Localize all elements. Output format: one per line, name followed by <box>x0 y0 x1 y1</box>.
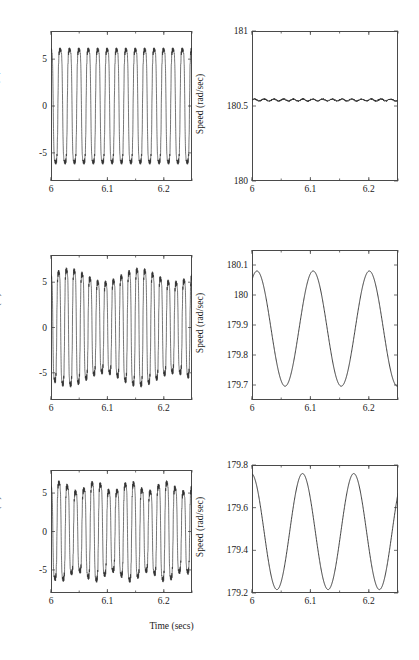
plot-trace-middle-right <box>0 0 419 660</box>
plot-trace-middle-left <box>0 0 419 660</box>
subplot-bottom-left: -50566.16.2Line Cuurent (A)Time (secs) <box>0 0 419 660</box>
ytick-label: 5 <box>5 54 47 64</box>
ytick-label: -5 <box>5 368 47 378</box>
subplot-top-right: 180180.518166.16.2Speed (rad/sec) <box>0 0 419 660</box>
ytick-label: 180 <box>206 290 248 300</box>
ytick-label: 179.2 <box>206 588 248 598</box>
xtick-label: 6 <box>49 184 54 194</box>
xtick-label: 6.2 <box>158 403 170 413</box>
ylabel-bottom-right: Speed (rad/sec) <box>195 443 205 611</box>
axes-box-top-right <box>252 31 398 181</box>
xtick-label: 6.1 <box>304 403 316 413</box>
data-series-middle-left <box>51 268 192 388</box>
ytick-label: -5 <box>5 148 47 158</box>
ylabel-top-right: Speed (rad/sec) <box>195 9 205 199</box>
xtick-label: 6.2 <box>363 403 375 413</box>
xtick-label: 6.1 <box>304 184 316 194</box>
ytick-label: 0 <box>5 101 47 111</box>
axes-box-top-left <box>51 31 192 181</box>
data-series-bottom-right <box>252 474 398 590</box>
xtick-label: 6.2 <box>158 596 170 606</box>
ytick-label: 0 <box>5 323 47 333</box>
axes-box-bottom-left <box>51 470 192 593</box>
data-series-middle-right <box>252 271 398 386</box>
plot-trace-top-right <box>0 0 419 660</box>
ytick-label: 180.5 <box>206 101 248 111</box>
ytick-label: -5 <box>5 565 47 575</box>
xtick-label: 6.1 <box>304 596 316 606</box>
xtick-label: 6.2 <box>363 596 375 606</box>
xtick-label: 6.1 <box>101 184 113 194</box>
ytick-label: 5 <box>5 277 47 287</box>
ytick-label: 179.8 <box>206 350 248 360</box>
data-series-top-left <box>51 48 192 165</box>
axes-box-middle-right <box>252 250 398 400</box>
axes-box-bottom-right <box>252 465 398 593</box>
data-series-bottom-left <box>51 481 192 583</box>
xtick-label: 6.1 <box>101 596 113 606</box>
xtick-label: 6.2 <box>158 184 170 194</box>
ytick-label: 179.6 <box>206 503 248 513</box>
plot-trace-bottom-left <box>0 0 419 660</box>
ytick-label: 179.8 <box>206 460 248 470</box>
subplot-top-left: -50566.16.2Line Current (A) <box>0 0 419 660</box>
xtick-label: 6 <box>250 403 255 413</box>
plot-trace-top-left <box>0 0 419 660</box>
figure-canvas: -50566.16.2Line Current (A)180180.518166… <box>0 0 419 660</box>
ytick-label: 179.4 <box>206 545 248 555</box>
xtick-label: 6 <box>250 184 255 194</box>
subplot-middle-right: 179.7179.8179.9180180.166.16.2Speed (rad… <box>0 0 419 660</box>
xlabel-bottom-left: Time (secs) <box>149 621 193 631</box>
xtick-label: 6.1 <box>101 403 113 413</box>
ytick-label: 179.7 <box>206 380 248 390</box>
ylabel-middle-right: Speed (rad/sec) <box>195 228 205 418</box>
xtick-label: 6.2 <box>363 184 375 194</box>
ytick-label: 181 <box>206 26 248 36</box>
ytick-label: 0 <box>5 527 47 537</box>
ytick-label: 179.9 <box>206 320 248 330</box>
subplot-middle-left: -50566.16.2Line Current (A) <box>0 0 419 660</box>
ytick-label: 180.1 <box>206 260 248 270</box>
subplot-bottom-right: 179.2179.4179.6179.866.16.2Speed (rad/se… <box>0 0 419 660</box>
ytick-label: 180 <box>206 176 248 186</box>
xtick-label: 6 <box>250 596 255 606</box>
xtick-label: 6 <box>49 596 54 606</box>
axes-box-middle-left <box>51 255 192 400</box>
data-series-top-right <box>252 98 398 101</box>
ytick-label: 5 <box>5 488 47 498</box>
xtick-label: 6 <box>49 403 54 413</box>
plot-trace-bottom-right <box>0 0 419 660</box>
